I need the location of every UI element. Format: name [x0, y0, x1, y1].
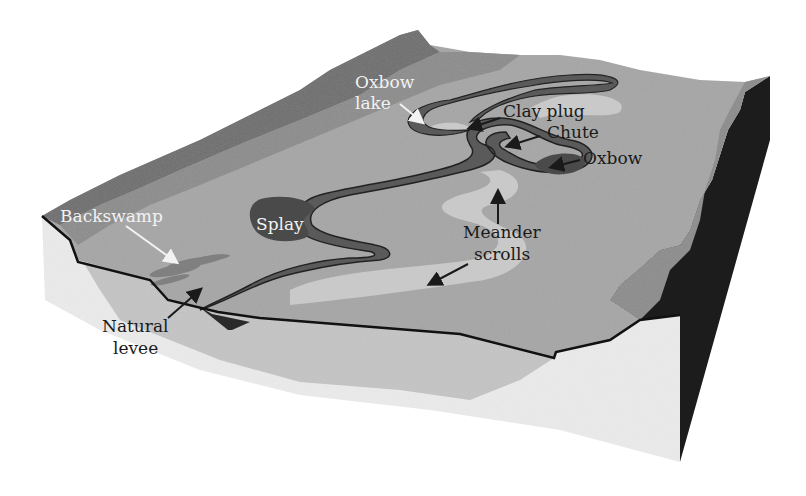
block-diagram-svg: Oxbow lake Clay plug Chute Oxbow Backswa… — [0, 0, 806, 496]
label-splay: Splay — [256, 214, 304, 234]
floodplain-diagram: Oxbow lake Clay plug Chute Oxbow Backswa… — [0, 0, 806, 496]
label-natural-levee-2: levee — [113, 338, 158, 358]
label-meander-1: Meander — [463, 222, 541, 242]
label-natural-levee-1: Natural — [102, 316, 169, 336]
label-oxbow: Oxbow — [583, 148, 643, 168]
label-meander-2: scrolls — [474, 244, 530, 264]
label-oxbow-lake-2: lake — [355, 93, 391, 113]
label-chute: Chute — [547, 122, 599, 142]
label-clay-plug: Clay plug — [503, 101, 585, 121]
label-backswamp: Backswamp — [60, 206, 163, 226]
label-oxbow-lake-1: Oxbow — [355, 72, 415, 92]
